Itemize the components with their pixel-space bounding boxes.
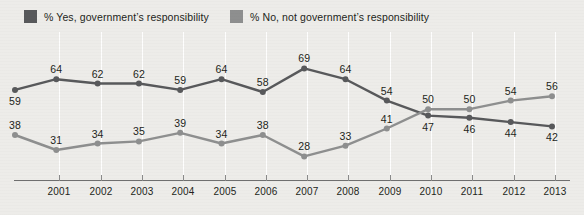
data-point-label: 50 xyxy=(422,93,434,105)
data-point-label: 28 xyxy=(298,140,310,152)
x-axis-label: 2009 xyxy=(378,186,401,197)
data-point-label: 58 xyxy=(257,76,269,88)
plot-area: 5964626259645869645447464442383134353934… xyxy=(0,32,584,180)
data-point xyxy=(136,81,142,87)
x-axis-tick xyxy=(555,175,556,181)
data-point-label: 69 xyxy=(298,52,310,64)
data-point-label: 64 xyxy=(50,63,62,75)
x-axis-label: 2002 xyxy=(89,186,112,197)
data-point-label: 34 xyxy=(92,128,104,140)
x-axis-tick xyxy=(183,175,184,181)
data-point xyxy=(53,76,59,82)
data-point-label: 62 xyxy=(133,68,145,80)
data-point xyxy=(136,138,142,144)
data-point xyxy=(260,132,266,138)
data-point xyxy=(12,87,18,93)
data-point-label: 42 xyxy=(546,131,558,143)
x-axis-tick xyxy=(431,175,432,181)
x-axis-tick xyxy=(307,175,308,181)
x-axis-line xyxy=(14,180,570,181)
x-axis-label: 2012 xyxy=(502,186,525,197)
x-axis-tick xyxy=(472,175,473,181)
data-point xyxy=(219,76,225,82)
legend-swatch-yes xyxy=(24,10,37,23)
x-axis-tick xyxy=(101,175,102,181)
data-point-label: 54 xyxy=(381,85,393,97)
data-point xyxy=(384,126,390,132)
data-point-label: 46 xyxy=(463,123,475,135)
data-point xyxy=(301,65,307,71)
data-point-label: 44 xyxy=(505,127,517,139)
x-axis-label: 2006 xyxy=(254,186,277,197)
x-axis-tick xyxy=(514,175,515,181)
chart-root: % Yes, government’s responsibility % No,… xyxy=(0,0,584,215)
data-point xyxy=(301,153,307,159)
data-point xyxy=(95,81,101,87)
data-point-label: 64 xyxy=(340,63,352,75)
x-axis-tick xyxy=(266,175,267,181)
x-axis-tick xyxy=(142,175,143,181)
data-point xyxy=(177,87,183,93)
x-axis-label: 2001 xyxy=(47,186,70,197)
x-axis-label: 2003 xyxy=(130,186,153,197)
data-point-label: 47 xyxy=(422,121,434,133)
data-point xyxy=(466,106,472,112)
data-point xyxy=(53,147,59,153)
data-point xyxy=(425,106,431,112)
x-axis-label: 2004 xyxy=(171,186,194,197)
data-point xyxy=(549,123,555,129)
x-axis-tick xyxy=(225,175,226,181)
x-axis-label: 2007 xyxy=(295,186,318,197)
x-axis-tick xyxy=(348,175,349,181)
data-point-label: 64 xyxy=(216,63,228,75)
data-point-label: 39 xyxy=(174,117,186,129)
data-point-label: 34 xyxy=(216,128,228,140)
data-point xyxy=(343,143,349,149)
data-point xyxy=(177,130,183,136)
data-point-label: 35 xyxy=(133,125,145,137)
data-point-label: 33 xyxy=(340,130,352,142)
data-point-label: 62 xyxy=(92,68,104,80)
data-point-label: 38 xyxy=(257,119,269,131)
data-point xyxy=(508,119,514,125)
data-point-label: 31 xyxy=(50,134,62,146)
data-point xyxy=(219,141,225,147)
data-point xyxy=(466,115,472,121)
x-axis-label: 2011 xyxy=(461,186,483,197)
data-point xyxy=(425,113,431,119)
data-point-label: 59 xyxy=(174,74,186,86)
legend-item-no: % No, not government’s responsibility xyxy=(230,10,429,23)
data-point xyxy=(95,141,101,147)
data-point xyxy=(12,132,18,138)
x-axis-tick xyxy=(390,175,391,181)
data-point-label: 38 xyxy=(9,119,21,131)
series-lines xyxy=(0,32,584,180)
data-point-label: 41 xyxy=(381,113,393,125)
x-axis-label: 2008 xyxy=(336,186,359,197)
data-point-label: 54 xyxy=(505,85,517,97)
legend-label-no: % No, not government’s responsibility xyxy=(250,11,429,23)
x-axis-label: 2010 xyxy=(419,186,442,197)
data-point-label: 56 xyxy=(546,80,558,92)
x-axis-label: 2013 xyxy=(543,186,566,197)
data-point xyxy=(384,98,390,104)
data-point-label: 59 xyxy=(9,95,21,107)
x-axis-tick xyxy=(59,175,60,181)
data-point xyxy=(343,76,349,82)
legend-swatch-no xyxy=(230,10,243,23)
x-axis-label: 2005 xyxy=(213,186,236,197)
data-point xyxy=(260,89,266,95)
data-point xyxy=(508,98,514,104)
chart-legend: % Yes, government’s responsibility % No,… xyxy=(0,8,584,30)
data-point xyxy=(549,93,555,99)
data-point-label: 50 xyxy=(463,93,475,105)
x-axis-labels: 2001200220032004200520062007200820092010… xyxy=(0,186,584,206)
legend-item-yes: % Yes, government’s responsibility xyxy=(24,10,209,23)
legend-label-yes: % Yes, government’s responsibility xyxy=(44,11,209,23)
